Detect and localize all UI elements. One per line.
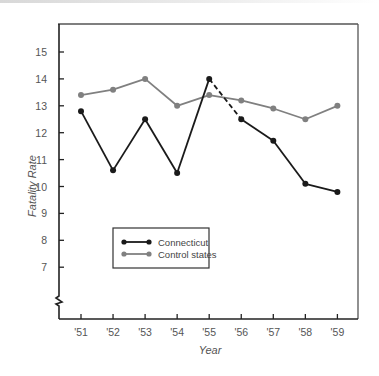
data-point xyxy=(302,116,308,122)
y-tick-label: 14 xyxy=(35,73,47,85)
series-segment xyxy=(81,111,113,170)
data-point xyxy=(270,138,276,144)
x-tick-label: '53 xyxy=(138,326,152,338)
data-point xyxy=(142,116,148,122)
series-segment xyxy=(241,119,273,141)
data-point xyxy=(110,87,116,93)
legend-label: Control states xyxy=(158,249,217,260)
series-segment xyxy=(177,79,209,173)
x-tick-label: '57 xyxy=(266,326,280,338)
data-point xyxy=(302,181,308,187)
x-ticks: '51'52'53'54'55'56'57'58'59 xyxy=(74,314,344,338)
x-tick-label: '52 xyxy=(106,326,120,338)
data-point xyxy=(270,105,276,111)
x-tick-label: '59 xyxy=(331,326,345,338)
series-segment xyxy=(273,108,305,119)
series-segment xyxy=(241,100,273,108)
series-segment xyxy=(145,79,177,106)
legend-marker-icon xyxy=(121,251,126,256)
line-chart: 789101112131415 '51'52'53'54'55'56'57'58… xyxy=(0,0,379,376)
y-axis xyxy=(56,24,62,319)
y-tick-label: 8 xyxy=(41,234,47,246)
data-point xyxy=(238,116,244,122)
series-group xyxy=(78,76,340,195)
y-tick-label: 12 xyxy=(35,127,47,139)
series-segment xyxy=(145,119,177,173)
data-point xyxy=(110,167,116,173)
data-point xyxy=(206,92,212,98)
series-segment xyxy=(273,141,305,184)
series-segment xyxy=(81,90,113,95)
series-segment xyxy=(305,106,337,119)
x-tick-label: '58 xyxy=(299,326,313,338)
data-point xyxy=(334,189,340,195)
y-axis-title: Fatality Rate xyxy=(26,155,38,217)
x-tick-label: '54 xyxy=(170,326,184,338)
data-point xyxy=(238,97,244,103)
series-segment xyxy=(113,79,145,90)
y-tick-label: 15 xyxy=(35,46,47,58)
x-tick-label: '55 xyxy=(202,326,216,338)
data-point xyxy=(334,103,340,109)
legend-marker-icon xyxy=(146,251,151,256)
x-tick-label: '56 xyxy=(234,326,248,338)
data-point xyxy=(78,108,84,114)
x-axis-title: Year xyxy=(199,344,223,356)
legend: Connecticut Control states xyxy=(113,228,217,268)
data-point xyxy=(174,103,180,109)
series-segment xyxy=(113,119,145,170)
series-control-states xyxy=(78,76,340,122)
legend-marker-icon xyxy=(146,239,151,244)
data-point xyxy=(206,76,212,82)
data-point xyxy=(174,170,180,176)
y-tick-label: 9 xyxy=(41,207,47,219)
legend-marker-icon xyxy=(121,239,126,244)
x-tick-label: '51 xyxy=(74,326,88,338)
series-segment xyxy=(305,184,337,192)
series-segment xyxy=(177,95,209,106)
data-point xyxy=(142,76,148,82)
data-point xyxy=(78,92,84,98)
y-tick-label: 7 xyxy=(41,261,47,273)
legend-label: Connecticut xyxy=(158,237,209,248)
y-tick-label: 13 xyxy=(35,100,47,112)
